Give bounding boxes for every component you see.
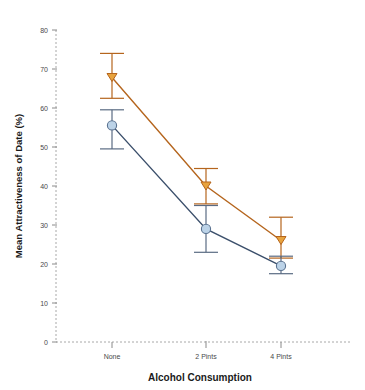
data-point-blue-none [107,121,116,130]
y-tick-label-0: 0 [44,339,48,346]
data-point-blue-4-pints [276,261,285,270]
x-tick-label-2-pints: 2 Pints [195,353,217,360]
y-tick-label-60: 60 [40,105,48,112]
series-blue-group [100,110,293,274]
y-tick-label-20: 20 [40,261,48,268]
y-tick-label-40: 40 [40,183,48,190]
data-point-orange-none [107,74,117,82]
y-tick-label-10: 10 [40,300,48,307]
data-point-orange-4-pints [276,237,286,245]
chart-container: 0 10 20 30 40 50 60 70 80 None 2 Pints 4… [0,0,365,390]
y-tick-label-50: 50 [40,144,48,151]
y-tick-label-30: 30 [40,222,48,229]
x-tick-label-none: None [104,353,121,360]
data-point-blue-2-pints [201,224,210,233]
series-blue-line [112,125,281,266]
series-orange-line [112,78,281,241]
series-orange-group [100,53,293,258]
y-axis-title: Mean Attractiveness of Date (%) [13,114,24,258]
series-blue-markers [107,121,285,271]
x-tick-label-4-pints: 4 Pints [270,353,292,360]
series-blue-error-bars [100,110,293,274]
line-chart-with-error-bars: 0 10 20 30 40 50 60 70 80 None 2 Pints 4… [0,0,365,390]
y-tick-label-80: 80 [40,27,48,34]
x-axis-title: Alcohol Consumption [148,372,252,383]
y-tick-label-70: 70 [40,66,48,73]
